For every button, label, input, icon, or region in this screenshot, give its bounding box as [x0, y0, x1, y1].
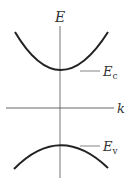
- valence-band-curve: [14, 145, 108, 169]
- k-axis-label: k: [117, 101, 125, 116]
- valence-band-label: Ev: [102, 139, 119, 156]
- band-diagram: E k Ec Ev: [0, 0, 130, 185]
- conduction-band-label: Ec: [102, 64, 118, 81]
- conduction-band-curve: [15, 32, 108, 70]
- energy-axis-label: E: [54, 9, 65, 25]
